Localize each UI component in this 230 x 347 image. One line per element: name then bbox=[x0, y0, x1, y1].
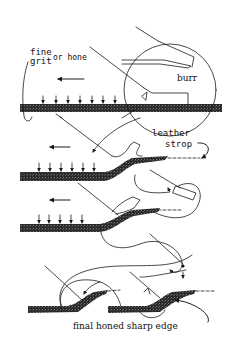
pivot-dot bbox=[182, 265, 185, 268]
chisel-angled bbox=[173, 186, 196, 200]
blade-line-4 bbox=[78, 183, 118, 215]
label-strop: strop bbox=[165, 139, 192, 149]
chisel-2 bbox=[112, 142, 142, 157]
panel-final: final honed sharp edge bbox=[28, 234, 214, 331]
curl-arrow bbox=[198, 143, 208, 158]
hone-stone bbox=[20, 104, 222, 112]
burr-mark bbox=[142, 92, 147, 100]
magnifier-circle bbox=[124, 44, 216, 136]
label-grit: grit bbox=[30, 56, 52, 66]
bracket-curve bbox=[23, 62, 32, 121]
pressure-arrows bbox=[43, 96, 115, 103]
strop-2 bbox=[20, 208, 160, 232]
blade-line-5 bbox=[150, 234, 183, 264]
pressure-arrows-2 bbox=[39, 163, 94, 171]
label-final: final honed sharp edge bbox=[73, 321, 178, 331]
blade-line-6 bbox=[45, 266, 82, 300]
label-leather: leather bbox=[152, 128, 191, 138]
panel-fine-grit: fine grit or hone burr bbox=[20, 27, 222, 136]
strop-3 bbox=[28, 290, 108, 313]
blade-line-2 bbox=[60, 117, 112, 156]
chisel-lifted-edge bbox=[158, 41, 194, 67]
panel-strop-2 bbox=[20, 183, 182, 272]
chisel-lifted bbox=[122, 60, 191, 68]
edge-pointer-arrow bbox=[175, 300, 209, 322]
loop-curve-2 bbox=[135, 175, 170, 193]
chisel-on-stone bbox=[144, 88, 188, 104]
blade-line bbox=[90, 47, 144, 88]
dashed-extension-3 bbox=[108, 290, 120, 291]
panel-strop-1: leather strop bbox=[20, 117, 208, 218]
pressure-arrows-3 bbox=[39, 215, 82, 223]
chisel-lifted-handle bbox=[136, 27, 158, 41]
label-burr: burr bbox=[177, 73, 198, 83]
blade-line-7 bbox=[130, 272, 160, 298]
loop-curve-4 bbox=[140, 270, 186, 277]
blade-line-3 bbox=[150, 170, 180, 188]
label-or-hone: or hone bbox=[53, 53, 87, 62]
sharpening-diagram: fine grit or hone burr leather strop bbox=[0, 0, 230, 347]
